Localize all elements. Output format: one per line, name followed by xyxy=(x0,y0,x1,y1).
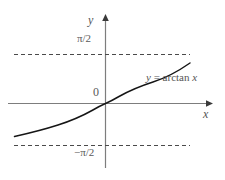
lower-asymptote-label: −π/2 xyxy=(74,147,94,158)
origin-label: 0 xyxy=(93,86,99,98)
x-axis-arrowhead xyxy=(206,100,213,107)
y-axis-label: y xyxy=(88,14,93,26)
curve-equation-equals: = xyxy=(151,71,163,83)
x-axis-label: x xyxy=(203,108,208,120)
y-axis-arrowhead xyxy=(102,14,109,21)
curve-equation-function: arctan xyxy=(163,71,193,83)
plot-canvas xyxy=(0,0,225,180)
curve-equation-label: y = arctan x xyxy=(146,72,197,83)
upper-asymptote-label: π/2 xyxy=(77,33,91,44)
arctan-figure: y x 0 π/2 −π/2 y = arctan x xyxy=(0,0,225,180)
y-axis xyxy=(102,14,109,168)
curve-equation-variable: x xyxy=(192,71,197,83)
